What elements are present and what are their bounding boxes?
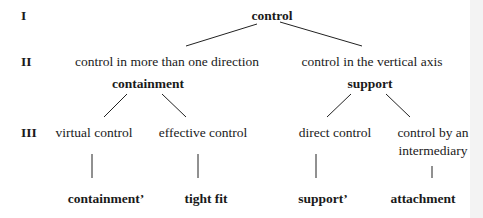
intermediary-control-node-line1: control by an xyxy=(397,125,468,141)
leaf-support-prime: support’ xyxy=(298,191,348,207)
edge-containment-virtual xyxy=(104,94,127,117)
edge-support-intermediary xyxy=(386,94,410,117)
root-node: control xyxy=(252,8,293,24)
leaf-tight-fit: tight fit xyxy=(184,191,227,207)
level-label-ii: II xyxy=(21,54,32,70)
edge-control-support xyxy=(280,22,362,46)
intermediary-control-node-line2: intermediary xyxy=(399,143,468,159)
level-label-i: I xyxy=(21,8,26,24)
level-label-iii: III xyxy=(21,125,37,141)
effective-control-node: effective control xyxy=(159,125,248,141)
leaf-attachment: attachment xyxy=(390,191,455,207)
direct-control-node: direct control xyxy=(299,125,371,141)
containment-description: control in more than one direction xyxy=(75,54,259,70)
support-description: control in the vertical axis xyxy=(302,54,443,70)
leaf-containment-prime: containment’ xyxy=(68,191,145,207)
containment-term: containment xyxy=(112,76,184,92)
tree-edges xyxy=(0,0,483,218)
edge-support-direct xyxy=(327,94,351,117)
virtual-control-node: virtual control xyxy=(56,125,133,141)
support-term: support xyxy=(347,76,392,92)
edge-control-containment xyxy=(186,24,257,46)
edge-containment-effective xyxy=(162,94,186,117)
